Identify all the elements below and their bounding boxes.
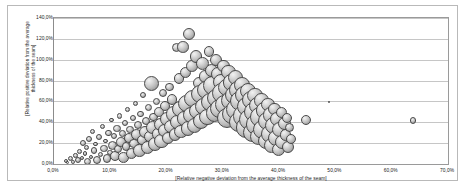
bubble-marker (140, 92, 146, 98)
y-axis-tick-label: 20,0% (9, 140, 53, 145)
x-axis-tick-label: 70,0% (427, 168, 467, 173)
plot-area (53, 17, 449, 165)
bubble-marker (183, 28, 195, 40)
x-axis-tick-mark (392, 164, 393, 165)
x-axis-tick-label: 0,0% (33, 168, 73, 173)
bubble-chart: [Relative positive deviation from the av… (7, 5, 458, 181)
y-axis-tick-label: 80,0% (9, 77, 53, 82)
bubble-marker (125, 107, 130, 112)
y-axis-tick-label: 60,0% (9, 98, 53, 103)
x-axis-tick-mark (54, 164, 55, 165)
bubble-marker (153, 98, 161, 106)
bubble-marker (96, 134, 102, 140)
bubble-marker (80, 156, 84, 160)
y-axis-tick-mark (53, 101, 54, 102)
y-axis-tick-mark (53, 122, 54, 123)
x-axis-tick-mark (279, 164, 280, 165)
y-axis-tick-labels: 0,0%20,0%40,0%60,0%80,0%100,0%120,0%140,… (8, 6, 53, 182)
x-axis-tick-mark (110, 164, 111, 165)
x-axis-tick-mark (167, 164, 168, 165)
bubble-marker (100, 124, 106, 130)
x-axis-tick-mark (448, 164, 449, 165)
bubble-marker (84, 158, 91, 165)
bubble-marker (144, 76, 160, 92)
gridline (54, 81, 448, 82)
x-axis-tick-label: 30,0% (202, 168, 242, 173)
x-axis-tick-label: 40,0% (258, 168, 298, 173)
bubble-marker (86, 136, 92, 142)
bubble-marker (77, 149, 82, 154)
x-axis-title: [Relative negative deviation from the av… (53, 176, 449, 181)
y-axis-tick-mark (53, 60, 54, 61)
bubble-marker (117, 113, 122, 118)
x-axis-tick-label: 20,0% (146, 168, 186, 173)
bubble-marker (66, 161, 69, 164)
bubble-marker (137, 111, 144, 118)
y-axis-tick-mark (53, 164, 54, 165)
bubble-marker (177, 41, 189, 53)
bubble-marker (301, 115, 311, 125)
bubble-marker (130, 115, 136, 121)
y-axis-tick-label: 0,0% (9, 161, 53, 166)
bubble-marker (93, 142, 97, 146)
x-axis-tick-mark (223, 164, 224, 165)
bubble-marker (90, 129, 95, 134)
y-axis-tick-mark (53, 18, 54, 19)
y-axis-tick-label: 100,0% (9, 56, 53, 61)
y-axis-tick-mark (53, 39, 54, 40)
x-axis-tick-mark (335, 164, 336, 165)
bubble-marker (83, 151, 87, 155)
y-axis-tick-mark (53, 143, 54, 144)
y-axis-tick-mark (53, 81, 54, 82)
bubble-marker (410, 117, 417, 124)
gridline (54, 39, 448, 40)
y-axis-tick-label: 40,0% (9, 119, 53, 124)
bubble-marker (91, 147, 98, 154)
x-axis-tick-label: 10,0% (89, 168, 129, 173)
bubble-marker (165, 83, 173, 91)
bubble-marker (285, 123, 294, 132)
x-axis-tick-label: 50,0% (314, 168, 354, 173)
x-axis-tick-label: 60,0% (371, 168, 411, 173)
bubble-marker (84, 145, 90, 151)
bubble-marker (109, 118, 113, 122)
bubble-marker (133, 101, 139, 107)
bubble-marker (93, 156, 101, 164)
y-axis-tick-label: 140,0% (9, 15, 53, 20)
bubble-marker (145, 104, 152, 111)
gridline (54, 60, 448, 61)
gridline (54, 18, 448, 19)
bubble-marker (103, 139, 108, 144)
y-axis-tick-label: 120,0% (9, 35, 53, 40)
